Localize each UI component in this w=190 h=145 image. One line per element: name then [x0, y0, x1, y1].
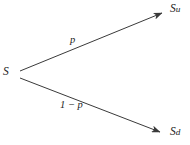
node-label-up: Su: [170, 3, 180, 15]
node-label-up-subscript: u: [176, 4, 181, 14]
binomial-tree-diagram: S Su Sd p 1 − p: [0, 0, 190, 145]
node-label-root: S: [3, 66, 9, 78]
branch-line-up: [20, 13, 162, 71]
branch-line-down: [20, 78, 160, 132]
edge-label-down-probability: 1 − p: [60, 100, 83, 111]
node-label-down-subscript: d: [176, 127, 181, 137]
tree-branches-svg: [0, 0, 190, 145]
node-label-down: Sd: [170, 126, 180, 138]
edge-label-up-probability: p: [70, 35, 75, 46]
